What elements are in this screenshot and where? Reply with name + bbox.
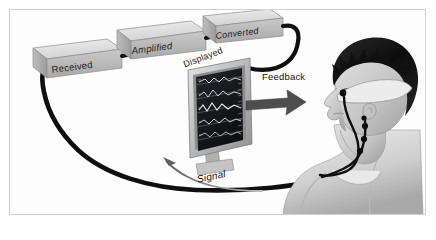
subject-figure [283,38,423,215]
biofeedback-diagram [0,0,436,240]
box-amplified [117,21,206,59]
box-converted [203,9,283,43]
diagram-canvas: Received Amplified Converted Displayed F… [0,0,436,240]
feedback-arrow [246,90,306,115]
monitor [188,58,252,175]
signal-cable [42,68,323,190]
electrode-forehead-icon [340,90,347,97]
box-received [33,39,122,78]
